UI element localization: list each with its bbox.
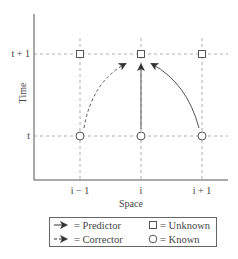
legend-predictor-label: = Predictor — [74, 220, 122, 231]
legend-unknown-label: = Unknown — [160, 220, 211, 231]
known-node-circle-icon — [137, 132, 145, 140]
legend-corrector-label: = Corrector — [74, 234, 123, 245]
known-circle-icon — [149, 235, 157, 243]
arrows — [84, 64, 199, 129]
legend: = Predictor = Corrector = Unknown = Know… — [50, 218, 217, 247]
unknown-node-square-icon — [77, 51, 84, 58]
y-tick-t: t — [27, 130, 30, 141]
y-axis-title: Time — [17, 82, 28, 103]
corrector-arrow — [84, 64, 125, 128]
legend-known-label: = Known — [160, 234, 200, 245]
grid-lines — [34, 38, 228, 180]
x-tick-i: i — [140, 185, 143, 196]
known-node-circle-icon — [76, 132, 84, 140]
x-tick-i-plus-1: i + 1 — [193, 185, 211, 196]
unknown-node-square-icon — [199, 51, 206, 58]
x-axis-title: Space — [119, 198, 143, 209]
y-tick-t-plus-1: t + 1 — [12, 48, 30, 59]
known-node-circle-icon — [198, 132, 206, 140]
unknown-node-square-icon — [138, 51, 145, 58]
predictor-arrow-curved — [152, 64, 199, 128]
unknown-square-icon — [150, 222, 157, 229]
stencil-diagram: t + 1 t i − 1 i i + 1 Space Time = Predi… — [0, 0, 238, 259]
axes — [34, 14, 228, 180]
x-tick-i-minus-1: i − 1 — [71, 185, 89, 196]
